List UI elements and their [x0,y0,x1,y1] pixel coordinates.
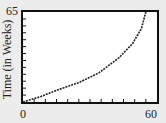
y-axis-label: Time (in Weeks) [0,15,15,105]
y-tick-label-max: 65 [6,5,18,17]
x-tick-label-min: 0 [20,108,26,120]
chart-canvas [0,0,166,123]
x-tick-label-max: 60 [145,108,157,120]
plot-area [22,11,158,103]
